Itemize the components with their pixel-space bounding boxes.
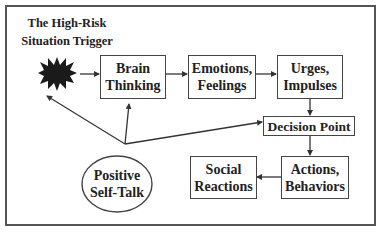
edge-selftalk-trigger (47, 96, 125, 144)
edge-selftalk-decision (125, 122, 262, 144)
node-social-reactions: Social Reactions (190, 156, 257, 199)
node-positive-self-talk: Positive Self-Talk (82, 156, 152, 212)
edge-selftalk-brain (125, 104, 129, 144)
node-urges-impulses: Urges, Impulses (277, 55, 343, 99)
node-emotions-feelings: Emotions, Feelings (188, 55, 256, 99)
starburst-icon (38, 57, 77, 91)
node-decision-point: Decision Point (263, 116, 355, 136)
node-brain-thinking: Brain Thinking (100, 55, 166, 99)
node-actions-behaviors: Actions, Behaviors (281, 156, 349, 199)
